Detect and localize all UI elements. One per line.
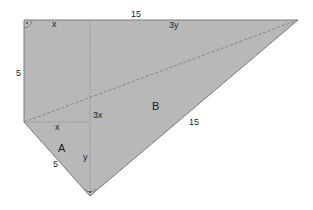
label-region-a: A xyxy=(58,142,66,154)
label-top-x: x xyxy=(52,19,57,29)
label-top-15: 15 xyxy=(131,9,141,19)
label-region-b: B xyxy=(152,100,159,112)
label-mid-3x: 3x xyxy=(93,110,103,120)
main-shape xyxy=(24,20,298,196)
label-hyp-15: 15 xyxy=(189,117,199,127)
label-top-3y: 3y xyxy=(169,20,179,30)
label-lower-y: y xyxy=(83,152,88,162)
label-mid-x: x xyxy=(55,122,60,132)
geometry-diagram: x 15 3y 5 3x x A B 5 y 15 xyxy=(0,0,313,210)
label-lower-5: 5 xyxy=(53,159,58,169)
label-left-5: 5 xyxy=(16,68,21,78)
